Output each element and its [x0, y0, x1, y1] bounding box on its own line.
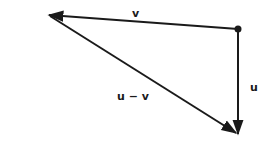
- vector-diagram: v u u − v: [0, 0, 272, 146]
- vector-u-minus-v-label: u − v: [117, 90, 150, 103]
- vector-u-label: u: [250, 81, 258, 94]
- vector-v-arrow: [49, 15, 238, 29]
- vector-u-minus-v-arrow: [50, 16, 236, 133]
- vector-v-label: v: [132, 7, 140, 20]
- origin-point: [235, 26, 242, 33]
